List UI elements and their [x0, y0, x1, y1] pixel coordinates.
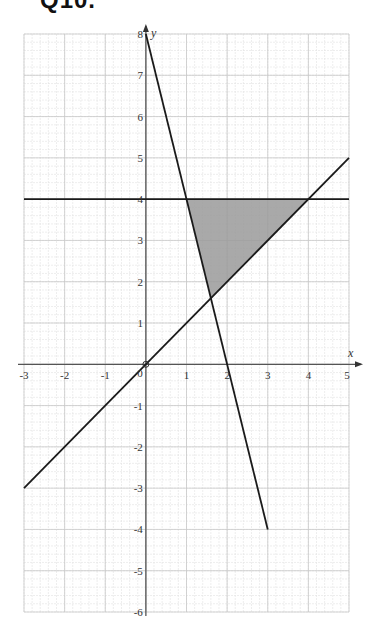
- y-tick-label: 5: [137, 152, 143, 164]
- y-tick-label: 3: [137, 234, 143, 246]
- x-tick-label: -2: [60, 369, 69, 381]
- y-axis-label: y: [150, 26, 157, 40]
- x-tick-label: -3: [19, 369, 29, 381]
- x-tick-label: 4: [306, 369, 312, 381]
- x-tick-label: 5: [344, 369, 350, 381]
- x-axis-label: x: [347, 346, 354, 360]
- y-tick-label: -2: [134, 441, 143, 453]
- y-tick-label: 6: [137, 111, 143, 123]
- x-tick-label: 2: [224, 369, 230, 381]
- y-axis-arrow-icon: [143, 24, 149, 32]
- y-tick-label: 4: [137, 193, 143, 205]
- feasible-region: [187, 199, 309, 298]
- y-tick-label: -1: [134, 400, 143, 412]
- graph: -3-2-112345087654321-1-2-3-4-5-6xy: [0, 0, 376, 640]
- y-tick-label: 2: [137, 276, 143, 288]
- y-tick-label: -5: [134, 565, 144, 577]
- x-tick-label: -1: [101, 369, 110, 381]
- y-tick-label: 1: [137, 317, 143, 329]
- x-axis-arrow-icon: [355, 361, 363, 367]
- y-tick-label: -3: [134, 482, 144, 494]
- y-tick-label: 8: [137, 28, 143, 40]
- y-tick-label: 7: [137, 69, 143, 81]
- origin-label: 0: [137, 367, 143, 379]
- y-tick-label: -4: [134, 523, 144, 535]
- x-tick-label: 1: [184, 369, 190, 381]
- y-tick-label: -6: [134, 606, 144, 618]
- x-tick-label: 3: [265, 369, 271, 381]
